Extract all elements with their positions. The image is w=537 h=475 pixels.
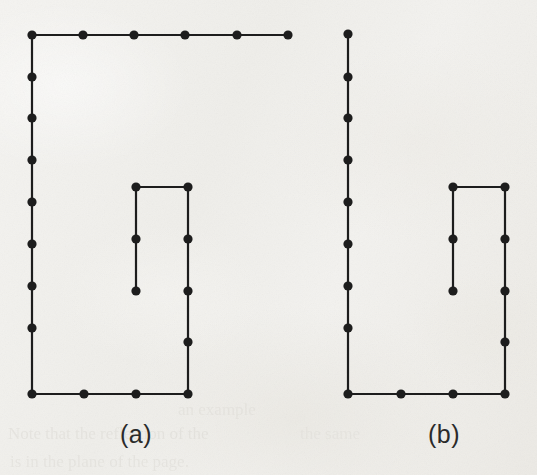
panel-b-label: (b) bbox=[428, 420, 460, 449]
graph-vertex bbox=[79, 389, 88, 398]
graph-vertex bbox=[343, 72, 352, 81]
graph-vertex bbox=[131, 234, 140, 243]
graph-vertex bbox=[448, 182, 457, 191]
graph-vertex bbox=[448, 286, 457, 295]
graph-vertex bbox=[27, 72, 36, 81]
graph-vertex bbox=[27, 389, 36, 398]
graph-vertex bbox=[448, 234, 457, 243]
graph-vertex bbox=[448, 389, 457, 398]
graph-vertex bbox=[180, 30, 189, 39]
graph-vertex bbox=[27, 113, 36, 122]
graph-vertex bbox=[27, 30, 36, 39]
edges-group bbox=[32, 34, 505, 394]
graph-vertex bbox=[27, 197, 36, 206]
graph-vertex bbox=[500, 337, 509, 346]
panel-a-label: (a) bbox=[120, 420, 152, 449]
graph-vertex bbox=[131, 389, 140, 398]
graph-vertex bbox=[500, 234, 509, 243]
graph-vertex bbox=[78, 30, 87, 39]
vertices-group bbox=[27, 29, 509, 398]
graph-vertex bbox=[129, 30, 138, 39]
graph-vertex bbox=[27, 323, 36, 332]
graph-vertex bbox=[183, 182, 192, 191]
figure-page: an exampleNote that the reflection of th… bbox=[0, 0, 537, 475]
graph-vertex bbox=[343, 113, 352, 122]
graph-vertex bbox=[183, 286, 192, 295]
graph-vertex bbox=[343, 239, 352, 248]
graph-vertex bbox=[27, 239, 36, 248]
graph-vertex bbox=[343, 281, 352, 290]
graph-vertex bbox=[500, 389, 509, 398]
graph-vertex bbox=[343, 197, 352, 206]
graph-vertex bbox=[131, 182, 140, 191]
graph-vertex bbox=[232, 30, 241, 39]
graph-vertex bbox=[183, 389, 192, 398]
graph-vertex bbox=[183, 337, 192, 346]
graph-vertex bbox=[131, 286, 140, 295]
graph-vertex bbox=[27, 281, 36, 290]
graph-vertex bbox=[27, 155, 36, 164]
line-drawing-figure bbox=[0, 0, 537, 475]
graph-vertex bbox=[343, 323, 352, 332]
graph-vertex bbox=[500, 182, 509, 191]
graph-vertex bbox=[343, 389, 352, 398]
graph-vertex bbox=[283, 30, 292, 39]
graph-vertex bbox=[343, 155, 352, 164]
graph-vertex bbox=[343, 29, 352, 38]
graph-vertex bbox=[500, 286, 509, 295]
graph-vertex bbox=[396, 389, 405, 398]
graph-vertex bbox=[183, 234, 192, 243]
